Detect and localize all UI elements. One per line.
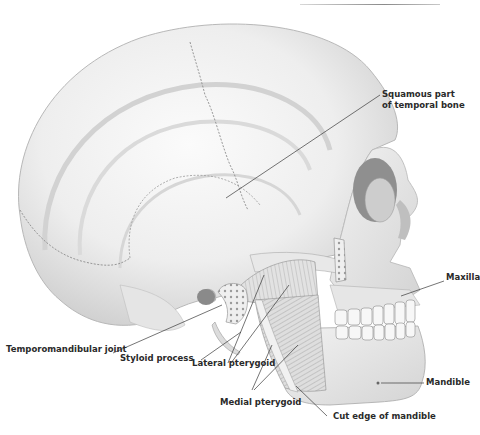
label-maxilla: Maxilla: [446, 272, 480, 283]
label-temporomandibular-joint: Temporomandibular joint: [6, 344, 127, 355]
styloid-process: [212, 322, 240, 355]
label-squamous-part: Squamous part of temporal bone: [382, 89, 465, 111]
label-squamous-line2: of temporal bone: [382, 100, 465, 111]
tmj-structures: [197, 283, 248, 355]
pterygoid-muscles: [238, 260, 326, 392]
maxilla: [330, 285, 420, 325]
label-cut-edge-of-mandible: Cut edge of mandible: [333, 411, 436, 422]
label-medial-pterygoid: Medial pterygoid: [220, 397, 301, 408]
label-styloid-process: Styloid process: [120, 353, 193, 364]
label-squamous-line1: Squamous part: [382, 89, 465, 100]
label-lateral-pterygoid: Lateral pterygoid: [192, 358, 275, 369]
label-mandible: Mandible: [426, 377, 470, 388]
